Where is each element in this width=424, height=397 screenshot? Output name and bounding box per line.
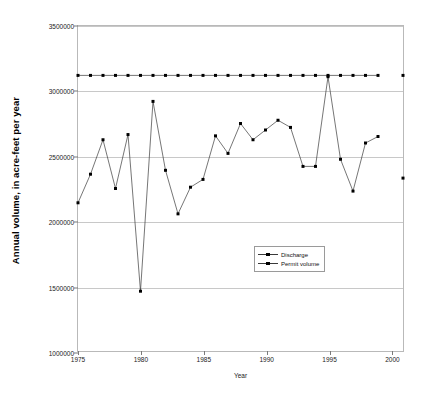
data-point-marker (302, 74, 305, 77)
data-point-marker (227, 74, 230, 77)
x-tick-label: 1990 (259, 356, 273, 363)
data-point-marker (264, 74, 267, 77)
data-point-marker (402, 177, 405, 180)
data-point-marker (239, 74, 242, 77)
data-point-marker (127, 133, 130, 136)
x-tick-mark (78, 351, 79, 355)
data-point-marker (202, 178, 205, 181)
data-point-marker (102, 74, 105, 77)
data-point-marker (214, 74, 217, 77)
plot-area: 1000000150000020000002500000300000035000… (77, 25, 404, 352)
permit-volume-series-icon (258, 259, 278, 268)
x-tick-label: 1975 (71, 356, 85, 363)
data-point-marker (352, 74, 355, 77)
data-point-marker (202, 74, 205, 77)
x-tick-label: 1980 (134, 356, 148, 363)
discharge-series-icon (258, 250, 278, 259)
data-point-marker (264, 129, 267, 132)
series-line (78, 77, 378, 291)
data-point-marker (152, 74, 155, 77)
legend-label-discharge: Discharge (281, 252, 308, 258)
y-tick-label: 3000000 (49, 88, 74, 95)
data-point-marker (364, 74, 367, 77)
x-tick-mark (204, 351, 205, 355)
legend-item-discharge: Discharge (258, 250, 319, 259)
x-axis-title: Year (77, 372, 404, 379)
x-tick-label: 1985 (197, 356, 211, 363)
data-point-marker (377, 74, 380, 77)
data-point-marker (102, 138, 105, 141)
data-point-marker (89, 173, 92, 176)
x-tick-label: 2000 (385, 356, 399, 363)
data-point-marker (77, 201, 80, 204)
data-point-marker (327, 74, 330, 77)
series-layer (78, 26, 403, 351)
y-tick-label: 2500000 (49, 153, 74, 160)
data-point-marker (214, 134, 217, 137)
y-axis-title: Annual volume, in acre-feet per year (4, 0, 28, 360)
data-point-marker (77, 74, 80, 77)
data-point-marker (289, 74, 292, 77)
chart-figure: Annual volume, in acre-feet per year 100… (0, 0, 424, 397)
data-point-marker (177, 212, 180, 215)
chart-legend: Discharge Permit volume (254, 246, 325, 272)
data-point-marker (164, 74, 167, 77)
data-point-marker (114, 74, 117, 77)
data-point-marker (402, 74, 405, 77)
data-point-marker (239, 122, 242, 125)
legend-item-permit-volume: Permit volume (258, 259, 319, 268)
x-tick-label: 1995 (322, 356, 336, 363)
y-tick-label: 2000000 (49, 219, 74, 226)
data-point-marker (152, 100, 155, 103)
data-point-marker (177, 74, 180, 77)
data-point-marker (339, 158, 342, 161)
data-point-marker (164, 169, 167, 172)
data-point-marker (339, 74, 342, 77)
x-tick-mark (392, 351, 393, 355)
data-point-marker (252, 138, 255, 141)
data-point-marker (189, 74, 192, 77)
data-point-marker (314, 165, 317, 168)
data-point-marker (277, 74, 280, 77)
y-tick-label: 1500000 (49, 284, 74, 291)
x-tick-mark (267, 351, 268, 355)
y-axis-title-text: Annual volume, in acre-feet per year (11, 96, 22, 263)
x-tick-mark (141, 351, 142, 355)
data-point-marker (314, 74, 317, 77)
data-point-marker (139, 74, 142, 77)
x-tick-mark (330, 351, 331, 355)
data-point-marker (227, 152, 230, 155)
data-point-marker (139, 290, 142, 293)
data-point-marker (364, 142, 367, 145)
data-point-marker (189, 186, 192, 189)
y-tick-label: 3500000 (49, 23, 74, 30)
data-point-marker (377, 135, 380, 138)
data-point-marker (114, 187, 117, 190)
legend-label-permit-volume: Permit volume (281, 261, 319, 267)
data-point-marker (277, 119, 280, 122)
data-point-marker (352, 190, 355, 193)
data-point-marker (289, 126, 292, 129)
data-point-marker (302, 165, 305, 168)
data-point-marker (127, 74, 130, 77)
data-point-marker (89, 74, 92, 77)
data-point-marker (252, 74, 255, 77)
